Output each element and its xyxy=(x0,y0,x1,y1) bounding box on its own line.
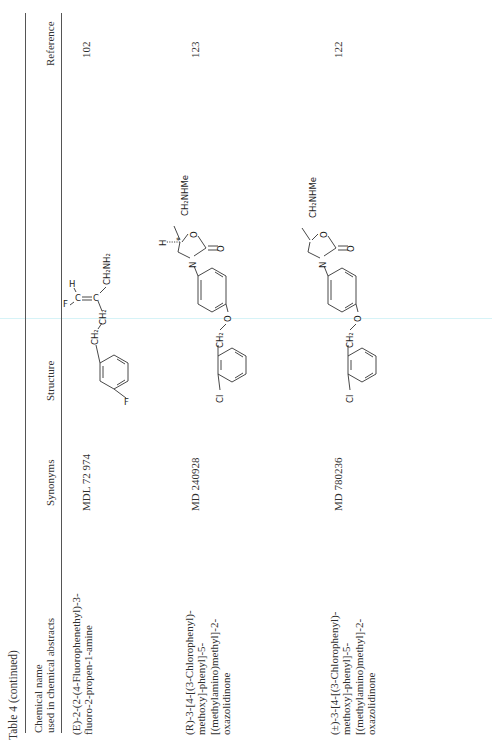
svg-text:O: O xyxy=(319,231,329,238)
chemical-name-cell: (E)-2-(2-(4-Fluorophenethyl)-3- fluoro-2… xyxy=(71,593,96,735)
svg-text:Cl: Cl xyxy=(215,395,225,403)
chemical-name-line: oxazolidinone xyxy=(221,610,233,735)
svg-text:C: C xyxy=(93,293,99,303)
svg-text:N: N xyxy=(318,262,328,268)
header-reference: Reference xyxy=(45,21,56,66)
synonym-cell: MD 240928 xyxy=(190,458,201,511)
svg-text:H: H xyxy=(158,240,168,246)
chemical-name-line: methoxy]-phenyl]-5- xyxy=(341,612,353,735)
chemical-name-cell: (±)-3-[4-[(3-Chlorophenyl)- methoxy]-phe… xyxy=(329,612,379,735)
svg-text:O: O xyxy=(353,315,363,322)
svg-text:CH₂: CH₂ xyxy=(215,332,225,348)
reference-cell: 102 xyxy=(81,42,92,59)
svg-text:*: * xyxy=(176,236,180,246)
chemical-name-line: oxazolidinone xyxy=(366,612,378,735)
svg-text:C: C xyxy=(75,293,81,303)
chemical-name-cell: (R)-3-[4-[(3-Chlorophenyl)- methoxy]-phe… xyxy=(184,610,234,735)
svg-text:CH₂NH₂: CH₂NH₂ xyxy=(102,253,112,285)
table-top-rule xyxy=(25,13,26,733)
svg-text:H: H xyxy=(69,279,75,289)
chemical-name-line: methoxy]-phenyl]-5- xyxy=(196,610,208,735)
fluorine-label: F xyxy=(124,397,129,407)
synonym-cell: MDL 72 974 xyxy=(81,454,92,511)
structure-md240928: Cl CH₂ O N O O * H CH₂NHMe xyxy=(150,180,260,410)
svg-text:CH₂NHMe: CH₂NHMe xyxy=(180,175,190,216)
svg-text:F: F xyxy=(63,299,68,309)
reference-cell: 122 xyxy=(333,42,344,59)
svg-text:Cl: Cl xyxy=(345,395,355,403)
header-structure: Structure xyxy=(45,361,56,401)
chemical-name-line: fluoro-2-propen-1-amine xyxy=(83,593,95,735)
header-chemical-name-line2: used in chemical abstracts xyxy=(45,618,56,733)
structure-md780236: Cl CH₂ O N O O CH₂NHMe xyxy=(280,180,390,410)
svg-text:CH₂: CH₂ xyxy=(345,332,355,348)
reference-cell: 123 xyxy=(190,42,201,59)
svg-text:CH₂: CH₂ xyxy=(90,329,100,345)
header-synonyms: Synonyms xyxy=(45,460,56,506)
svg-text:O: O xyxy=(216,245,226,252)
table-caption: Table 4 (continued) xyxy=(8,650,20,740)
structure-mdl72974: F CH₂ CH₂ C C F H CH₂NH₂ xyxy=(60,255,140,415)
svg-text:CH₂: CH₂ xyxy=(98,309,108,325)
synonym-cell: MD 780236 xyxy=(333,458,344,511)
svg-text:O: O xyxy=(223,315,233,322)
svg-text:N: N xyxy=(188,262,198,268)
svg-text:O: O xyxy=(189,231,199,238)
svg-text:CH₂NHMe: CH₂NHMe xyxy=(308,177,318,218)
header-chemical-name-line1: Chemical name xyxy=(33,664,44,733)
svg-text:O: O xyxy=(346,245,356,252)
